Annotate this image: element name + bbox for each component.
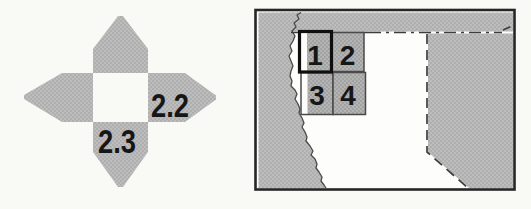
sheet-index-diagram: 2.2 2.3 [24, 16, 216, 187]
index-center-sheet [93, 73, 148, 122]
location-map: 1 2 3 4 [256, 10, 515, 190]
index-arm-north [93, 16, 148, 73]
index-arm-west [24, 73, 93, 122]
oregon-region [280, 13, 513, 32]
index-label-south-sheet: 2.3 [98, 122, 136, 160]
grid-cell-2-label: 2 [340, 40, 356, 71]
grid-cell-3-label: 3 [309, 80, 325, 111]
grid-cell-1-label: 1 [307, 40, 323, 71]
index-label-east-sheet: 2.2 [151, 86, 189, 124]
figure-svg: 2.2 2.3 [0, 0, 531, 209]
sheet-grid: 1 2 3 4 [300, 32, 366, 115]
figure-canvas: 2.2 2.3 [0, 0, 531, 209]
grid-cell-4-label: 4 [340, 80, 356, 111]
